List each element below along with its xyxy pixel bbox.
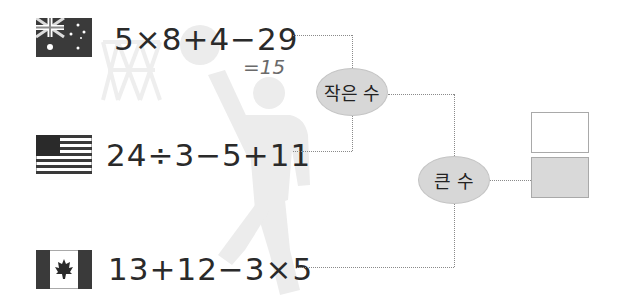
connector-line	[297, 267, 454, 268]
connector-line	[490, 180, 531, 181]
handwritten-answer-note: =15	[243, 55, 285, 79]
connector-line	[388, 94, 454, 95]
connector-line	[352, 35, 353, 68]
canada-flag-icon	[36, 250, 92, 289]
connector-line	[352, 116, 353, 151]
expression-usa: 24÷3−5+11	[106, 140, 311, 171]
connector-line	[454, 94, 455, 156]
connector-line	[293, 151, 352, 152]
expression-australia: 5×8+4−29	[114, 24, 299, 55]
australia-flag-icon	[36, 18, 92, 57]
answer-box-bottom[interactable]	[531, 157, 589, 198]
expression-canada: 13+12−3×5	[108, 254, 313, 285]
smaller-number-node: 작은 수	[316, 68, 388, 116]
answer-box-top[interactable]	[531, 112, 589, 153]
larger-number-node: 큰 수	[418, 156, 490, 204]
usa-flag-icon	[36, 135, 92, 174]
connector-line	[293, 35, 352, 36]
connector-line	[454, 204, 455, 267]
